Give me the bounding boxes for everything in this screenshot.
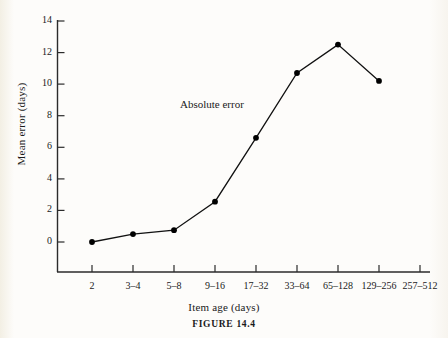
x-axis-ticks: [92, 265, 420, 272]
x-tick-label-257-512: 257–512: [397, 280, 443, 291]
data-point-17-32: [253, 135, 259, 141]
data-point-2: [89, 239, 95, 245]
data-point-65-128: [335, 42, 341, 48]
y-tick-label-6: 6: [28, 140, 52, 151]
figure-caption: FIGURE 14.4: [0, 319, 448, 329]
y-tick-label-8: 8: [28, 109, 52, 120]
x-tick-label-17-32: 17–32: [236, 280, 276, 291]
x-tick-label-33-64: 33–64: [277, 280, 317, 291]
data-point-5-8: [171, 227, 177, 233]
x-tick-label-9-16: 9–16: [195, 280, 235, 291]
x-tick-label-3-4: 3–4: [113, 280, 153, 291]
x-axis-title: Item age (days): [0, 301, 448, 313]
y-axis-title: Mean error (days): [15, 59, 27, 189]
y-tick-label-0: 0: [28, 235, 52, 246]
series-line-absolute-error: [92, 45, 379, 242]
y-tick-label-4: 4: [28, 172, 52, 183]
data-point-33-64: [294, 70, 300, 76]
data-point-129-256: [376, 78, 382, 84]
x-tick-label-65-128: 65–128: [316, 280, 360, 291]
figure-14-4: 14 12 10 8 6 4 2 0 2 3–4 5–8 9–16 17–32 …: [0, 0, 448, 338]
x-tick-label-129-256: 129–256: [356, 280, 402, 291]
data-point-3-4: [130, 231, 136, 237]
chart-axes: [57, 20, 430, 272]
y-axis-ticks: [58, 21, 65, 242]
y-tick-label-10: 10: [28, 77, 52, 88]
y-tick-label-12: 12: [28, 46, 52, 57]
x-tick-label-5-8: 5–8: [154, 280, 194, 291]
series-absolute-error: [89, 42, 382, 245]
x-tick-label-2: 2: [72, 280, 112, 291]
y-tick-label-2: 2: [28, 203, 52, 214]
data-point-9-16: [212, 199, 218, 205]
series-annotation-absolute-error: Absolute error: [180, 98, 244, 110]
y-tick-label-14: 14: [28, 14, 52, 25]
